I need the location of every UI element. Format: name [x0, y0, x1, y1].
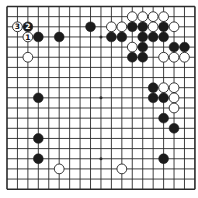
black-stone [138, 42, 148, 52]
move-number-label: 2 [25, 22, 30, 31]
white-stone [169, 93, 179, 103]
white-stone [107, 22, 117, 32]
white-stone [117, 22, 127, 32]
white-stone [148, 12, 158, 22]
star-point [99, 157, 102, 160]
white-stone [180, 52, 190, 62]
white-stone [159, 83, 169, 93]
white-stone [117, 164, 127, 174]
black-stone [138, 52, 148, 62]
white-stone [159, 52, 169, 62]
white-stone [169, 83, 179, 93]
white-stone [159, 12, 169, 22]
black-stone: 2 [23, 22, 33, 32]
black-stone [148, 32, 158, 42]
move-number-label: 1 [25, 33, 30, 42]
white-stone [148, 22, 158, 32]
black-stone [138, 32, 148, 42]
white-stone [127, 42, 137, 52]
white-stone: 1 [23, 32, 33, 42]
black-stone [159, 93, 169, 103]
black-stone [148, 83, 158, 93]
white-stone: 3 [13, 22, 23, 32]
black-stone [169, 123, 179, 133]
move-number-label: 3 [15, 22, 20, 31]
star-point [99, 96, 102, 99]
white-stone [169, 52, 179, 62]
black-stone [117, 32, 127, 42]
black-stone [33, 32, 43, 42]
black-stone [33, 134, 43, 144]
white-stone [138, 12, 148, 22]
black-stone [159, 22, 169, 32]
black-stone [33, 154, 43, 164]
black-stone [138, 22, 148, 32]
go-board: 321 [0, 0, 198, 198]
star-point [99, 35, 102, 38]
black-stone [159, 154, 169, 164]
black-stone [159, 32, 169, 42]
white-stone [169, 103, 179, 113]
black-stone [107, 32, 117, 42]
black-stone [54, 32, 64, 42]
black-stone [33, 93, 43, 103]
white-stone [127, 12, 137, 22]
black-stone [127, 22, 137, 32]
white-stone [54, 164, 64, 174]
black-stone [127, 52, 137, 62]
white-stone [169, 22, 179, 32]
black-stone [159, 113, 169, 123]
white-stone [23, 52, 33, 62]
black-stone [86, 22, 96, 32]
black-stone [148, 93, 158, 103]
black-stone [169, 42, 179, 52]
black-stone [180, 42, 190, 52]
